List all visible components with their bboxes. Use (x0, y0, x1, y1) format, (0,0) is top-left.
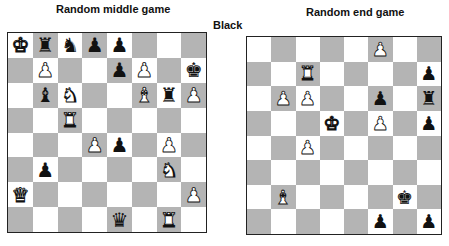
white-pawn-icon: ♟ (299, 89, 316, 108)
square-g3 (393, 160, 417, 185)
square-f8: ♟ (368, 37, 392, 62)
white-pawn-icon: ♟ (86, 135, 104, 155)
square-f7: ♟ (132, 58, 157, 83)
square-f6: ♝ (132, 83, 157, 108)
square-b7: ♟ (33, 58, 58, 83)
square-a8 (247, 37, 271, 62)
square-d3 (82, 157, 107, 182)
square-c3 (58, 157, 83, 182)
square-h5: ♟ (417, 111, 441, 136)
square-b4 (271, 136, 295, 161)
square-c8 (296, 37, 320, 62)
black-pawn-icon: ♟ (36, 160, 54, 180)
black-pawn-icon: ♟ (420, 64, 437, 83)
square-b5 (271, 111, 295, 136)
square-f5 (132, 108, 157, 133)
square-c6: ♞ (58, 83, 83, 108)
square-g5 (157, 108, 182, 133)
square-a1 (8, 207, 33, 232)
square-d8 (320, 37, 344, 62)
square-d4 (320, 136, 344, 161)
white-bishop-icon: ♝ (135, 85, 153, 105)
square-c7 (58, 58, 83, 83)
square-b2: ♝ (271, 185, 295, 210)
square-g1: ♜ (157, 207, 182, 232)
square-e1 (344, 209, 368, 234)
square-g4: ♟ (157, 133, 182, 158)
square-f2 (368, 185, 392, 210)
square-g7 (157, 58, 182, 83)
black-king-icon: ♚ (185, 60, 203, 80)
square-d1 (320, 209, 344, 234)
white-pawn-icon: ♟ (185, 85, 203, 105)
square-c5 (296, 111, 320, 136)
middle-game-board: ♚♜♞♟♟♟♟♟♚♝♞♝♜♟♜♟♟♟♟♞♛♟♛♜ (7, 32, 207, 233)
black-pawn-icon: ♟ (86, 35, 104, 55)
square-h6: ♟ (181, 83, 206, 108)
square-h5 (181, 108, 206, 133)
square-b6: ♟ (271, 86, 295, 111)
square-a6 (8, 83, 33, 108)
square-g3: ♞ (157, 157, 182, 182)
square-f8 (132, 33, 157, 58)
white-pawn-icon: ♟ (275, 89, 292, 108)
square-h7: ♚ (181, 58, 206, 83)
square-h2: ♟ (181, 182, 206, 207)
square-e4: ♟ (107, 133, 132, 158)
square-d1 (82, 207, 107, 232)
black-pawn-icon: ♟ (372, 212, 389, 231)
square-a1 (247, 209, 271, 234)
square-b7 (271, 62, 295, 87)
black-pawn-icon: ♟ (110, 60, 128, 80)
square-f3 (368, 160, 392, 185)
square-a8: ♚ (8, 33, 33, 58)
square-c7: ♜ (296, 62, 320, 87)
end-game-board: ♟♜♟♟♟♟♜♚♟♟♟♝♚♟♟ (246, 36, 442, 235)
square-c8: ♞ (58, 33, 83, 58)
square-c5: ♜ (58, 108, 83, 133)
square-c2 (296, 185, 320, 210)
square-g8 (393, 37, 417, 62)
square-a4 (247, 136, 271, 161)
square-c2 (58, 182, 83, 207)
black-pawn-icon: ♟ (110, 135, 128, 155)
square-c4 (58, 133, 83, 158)
square-b3 (271, 160, 295, 185)
white-king-icon: ♚ (323, 114, 340, 133)
black-rook-icon: ♜ (420, 89, 437, 108)
square-e8 (344, 37, 368, 62)
square-b8: ♜ (33, 33, 58, 58)
square-e1: ♛ (107, 207, 132, 232)
square-h6: ♜ (417, 86, 441, 111)
end-game-title: Random end game (306, 6, 404, 18)
square-e2 (344, 185, 368, 210)
white-king-icon: ♚ (11, 35, 29, 55)
square-b4 (33, 133, 58, 158)
black-pawn-icon: ♟ (420, 212, 437, 231)
square-e2 (107, 182, 132, 207)
black-rook-icon: ♜ (36, 35, 54, 55)
square-g6: ♜ (157, 83, 182, 108)
white-pawn-icon: ♟ (299, 138, 316, 157)
square-d6 (320, 86, 344, 111)
square-f2 (132, 182, 157, 207)
square-e4 (344, 136, 368, 161)
square-a7 (247, 62, 271, 87)
square-f5: ♟ (368, 111, 392, 136)
square-f1: ♟ (368, 209, 392, 234)
square-f4 (132, 133, 157, 158)
square-g7 (393, 62, 417, 87)
square-c6: ♟ (296, 86, 320, 111)
square-f7 (368, 62, 392, 87)
square-a4 (8, 133, 33, 158)
square-h1 (181, 207, 206, 232)
square-e7: ♟ (107, 58, 132, 83)
middle-game-title: Random middle game (56, 3, 170, 15)
white-pawn-icon: ♟ (372, 114, 389, 133)
white-rook-icon: ♜ (61, 110, 79, 130)
square-f6: ♟ (368, 86, 392, 111)
white-knight-icon: ♞ (160, 160, 178, 180)
square-d2 (320, 185, 344, 210)
square-h7: ♟ (417, 62, 441, 87)
square-c1 (58, 207, 83, 232)
